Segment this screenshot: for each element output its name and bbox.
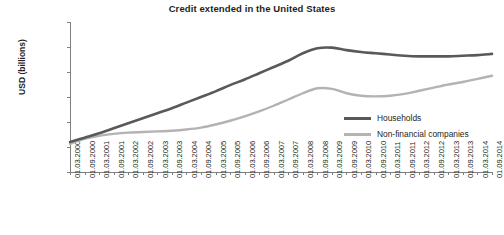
x-axis-tick-mark xyxy=(143,172,144,175)
x-axis-tick-mark xyxy=(332,172,333,175)
x-axis-tick-mark xyxy=(128,172,129,175)
x-axis-tick-mark xyxy=(201,172,202,175)
x-axis-tick-mark xyxy=(259,172,260,175)
x-axis-tick-mark xyxy=(346,172,347,175)
chart-title: Credit extended in the United States xyxy=(0,3,504,14)
x-axis-tick-mark xyxy=(303,172,304,175)
legend-swatch-non-financial-companies xyxy=(344,133,371,136)
plot-area: 4,0006,0008,00010,00012,00014,00016,000 … xyxy=(70,22,492,172)
legend-item-non-financial-companies: Non-financial companies xyxy=(344,126,469,142)
x-axis-tick-mark xyxy=(99,172,100,175)
x-axis-tick-mark xyxy=(361,172,362,175)
x-axis-tick-mark xyxy=(492,172,493,175)
legend-label-households: Households xyxy=(377,113,421,123)
legend-swatch-households xyxy=(344,117,371,120)
x-axis-tick-mark xyxy=(376,172,377,175)
x-axis-tick-mark xyxy=(390,172,391,175)
chart-legend: Households Non-financial companies xyxy=(344,110,469,142)
chart-container: Credit extended in the United States USD… xyxy=(0,0,504,235)
x-axis-tick-mark xyxy=(477,172,478,175)
x-axis-tick-mark xyxy=(216,172,217,175)
x-axis-tick-mark xyxy=(114,172,115,175)
x-axis-tick-mark xyxy=(85,172,86,175)
x-axis-tick-mark xyxy=(230,172,231,175)
x-axis-tick-mark xyxy=(419,172,420,175)
x-axis-tick-mark xyxy=(157,172,158,175)
x-axis-tick-mark xyxy=(274,172,275,175)
x-axis-tick-mark xyxy=(405,172,406,175)
x-axis-tick-label: 01.09.2014 xyxy=(495,141,504,178)
x-axis-tick-mark xyxy=(186,172,187,175)
x-axis-tick-mark xyxy=(434,172,435,175)
x-axis-tick-mark xyxy=(245,172,246,175)
legend-label-non-financial-companies: Non-financial companies xyxy=(377,129,469,139)
legend-item-households: Households xyxy=(344,110,469,126)
x-axis-tick-mark xyxy=(70,172,71,175)
x-axis-tick-mark xyxy=(288,172,289,175)
y-axis-title: USD (billions) xyxy=(17,12,27,122)
x-axis-tick-mark xyxy=(463,172,464,175)
series-lines xyxy=(70,22,492,172)
x-axis-tick-mark xyxy=(448,172,449,175)
x-axis-tick-mark xyxy=(172,172,173,175)
x-axis-tick-mark xyxy=(317,172,318,175)
